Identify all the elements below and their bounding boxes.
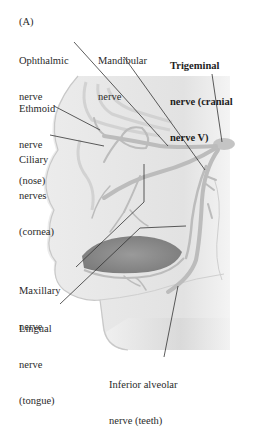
label-line: Ciliary xyxy=(19,154,54,166)
label-line: nerve xyxy=(98,91,147,103)
label-line: Lingual xyxy=(19,323,55,335)
label-line: Inferior alveolar xyxy=(109,379,178,391)
label-trigeminal-nerve: Trigeminal nerve (cranial nerve V) xyxy=(170,36,233,168)
label-line: Ophthalmic xyxy=(19,55,69,67)
label-ciliary-nerves: Ciliary nerves (cornea) xyxy=(19,130,54,262)
label-line: Maxillary xyxy=(19,285,60,297)
label-line: Trigeminal xyxy=(170,60,233,72)
label-mandibular-nerve: Mandibular nerve xyxy=(98,31,147,127)
label-line: Ethmoid xyxy=(19,103,55,115)
label-line: nerves xyxy=(19,190,54,202)
label-line: (tongue) xyxy=(19,395,55,407)
label-line: (cornea) xyxy=(19,226,54,238)
label-line: nerve (cranial xyxy=(170,96,233,108)
label-lingual-nerve: Lingual nerve (tongue) xyxy=(19,299,55,431)
label-line: nerve V) xyxy=(170,132,233,144)
label-line: nerve (teeth) xyxy=(109,415,178,427)
label-inferior-alveolar-nerve: Inferior alveolar nerve (teeth) xyxy=(109,355,178,431)
panel-letter: (A) xyxy=(19,16,34,28)
label-line: Mandibular xyxy=(98,55,147,67)
label-line: nerve xyxy=(19,359,55,371)
